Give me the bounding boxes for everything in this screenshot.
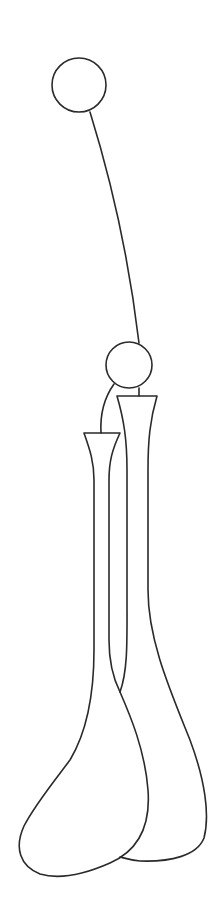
- middle-balloon-circle: [106, 342, 152, 388]
- line-drawing-canvas: [0, 0, 224, 916]
- balloon-vases-illustration: [0, 0, 224, 916]
- left-vase-tether: [101, 384, 114, 433]
- top-balloon-circle: [52, 58, 106, 112]
- right-vase-outline: [117, 396, 206, 861]
- balloon-string: [90, 112, 139, 343]
- left-vase-outline: [19, 433, 148, 876]
